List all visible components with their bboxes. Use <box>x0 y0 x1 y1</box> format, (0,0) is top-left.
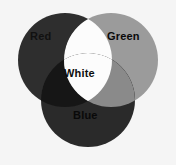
venn-label-red: Red <box>30 31 51 42</box>
venn-label-blue: Blue <box>73 110 98 121</box>
venn-label-green: Green <box>107 31 140 42</box>
venn-label-white: White <box>64 68 95 79</box>
venn-diagram-figure: Red Green Blue White <box>0 0 176 165</box>
venn-diagram-svg <box>0 0 176 165</box>
